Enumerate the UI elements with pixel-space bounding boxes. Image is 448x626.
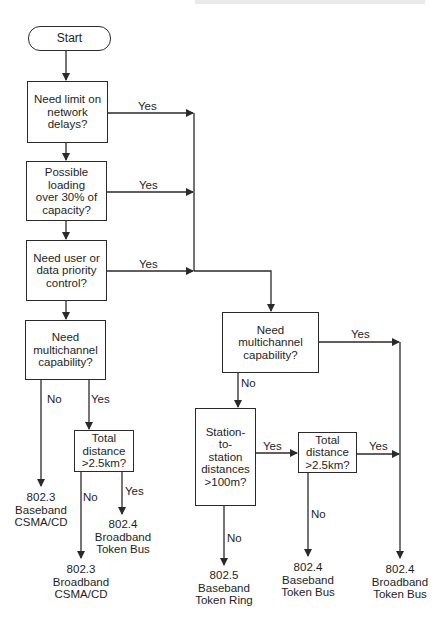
yes-label: Yes [91,393,110,405]
start-label: Start [57,32,82,45]
start-terminal: Start [28,26,111,51]
decision-label: Need limit on network delays? [34,93,101,131]
decision-multichannel-right: Need multichannel capability? [222,312,319,373]
outcome-8024-broadband-token-bus-right: 802.4 Broadband Token Bus [372,563,428,601]
yes-label: Yes [138,100,157,112]
decision-label: Total distance >2.5km? [305,434,349,472]
no-label: No [241,377,256,389]
yes-label: Yes [351,328,370,340]
yes-label: Yes [369,440,388,452]
no-label: No [47,393,62,405]
decision-priority-control: Need user or data priority control? [26,240,107,301]
outcome-8025-baseband-token-ring: 802.5 Baseband Token Ring [195,569,253,607]
decision-label: Need user or data priority control? [33,252,99,290]
decision-station-distance: Station- to- station distances >100m? [195,408,256,506]
outcome-8024-broadband-token-bus-left: 802.4 Broadband Token Bus [95,518,151,556]
decision-multichannel-left: Need multichannel capability? [25,320,106,380]
yes-label: Yes [263,440,282,452]
no-label: No [311,508,326,520]
decision-label: Need multichannel capability? [33,331,98,369]
outcome-8024-baseband-token-bus: 802.4 Baseband Token Bus [281,561,335,599]
yes-label: Yes [139,258,158,270]
decision-distance-left: Total distance >2.5km? [74,430,134,472]
no-label: No [83,491,98,503]
yes-label: Yes [139,179,158,191]
outcome-8023-baseband-csmacd: 802.3 Baseband CSMA/CD [14,491,67,529]
decision-loading-capacity: Possible loading over 30% of capacity? [26,161,107,221]
decision-label: Need multichannel capability? [238,324,303,362]
decision-label: Total distance >2.5km? [82,432,126,470]
decision-distance-right: Total distance >2.5km? [298,432,357,473]
decision-network-delays: Need limit on network delays? [27,81,108,143]
no-label: No [227,532,242,544]
decision-label: Station- to- station distances >100m? [201,426,250,489]
yes-label: Yes [125,485,144,497]
outcome-8023-broadband-csmacd: 802.3 Broadband CSMA/CD [53,563,109,601]
decision-label: Possible loading over 30% of capacity? [29,166,104,216]
